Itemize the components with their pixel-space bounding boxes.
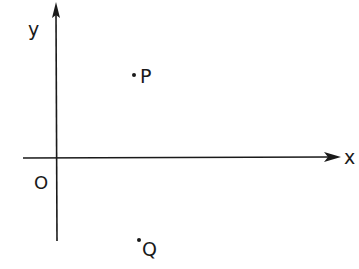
y-axis — [56, 14, 57, 241]
x-axis-label: x — [344, 148, 355, 167]
point-p-label: P — [140, 67, 151, 86]
coordinate-plane — [0, 0, 359, 269]
point-q-label: Q — [142, 240, 157, 259]
point-q-marker — [137, 238, 141, 242]
point-p-marker — [132, 73, 136, 77]
origin-label: O — [34, 174, 48, 192]
x-axis — [23, 157, 328, 158]
y-axis-label: y — [28, 20, 39, 39]
